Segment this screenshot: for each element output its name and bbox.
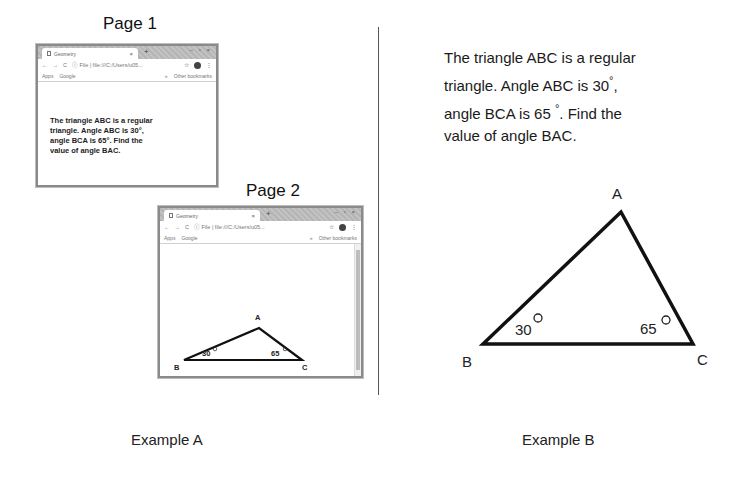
browser-window-page-1: Geometry × + – ▫ × ← → C ⓘ File | file:/… (36, 44, 218, 187)
degree-icon (662, 316, 670, 324)
example-b-label: Example B (522, 431, 595, 448)
tab-close-icon[interactable]: × (251, 213, 255, 219)
problem-line: triangle. Angle ABC is 30°, (444, 69, 684, 97)
vertex-b-label: B (462, 353, 472, 370)
browser-toolbar: ← → C ⓘ File | file:///C:/Users/u05... ☆… (38, 59, 216, 71)
page-content: The triangle ABC is a regular triangle. … (38, 82, 216, 156)
triangle-diagram-large: A B C 30 65 (440, 175, 731, 395)
tab-close-icon[interactable]: × (129, 51, 133, 57)
back-arrow-icon[interactable]: ← (42, 62, 48, 68)
problem-line: The triangle ABC is a regular (50, 116, 216, 126)
document-icon (47, 51, 51, 56)
profile-avatar[interactable] (339, 224, 346, 231)
reload-icon[interactable]: C (185, 224, 189, 230)
window-controls[interactable]: – ▫ × (190, 47, 212, 53)
vertex-b-label: B (174, 363, 180, 372)
bookmark-star-icon[interactable]: ☆ (184, 62, 189, 68)
address-bar[interactable]: ⓘ File | file:///C:/Users/u05... (194, 223, 324, 231)
angle-b-label: 30 (202, 349, 210, 358)
bookmarks-overflow[interactable]: » (310, 235, 313, 241)
menu-icon[interactable]: ⋮ (206, 62, 212, 68)
vertical-divider (378, 27, 379, 395)
problem-line: triangle. Angle ABC is 30°, (50, 126, 216, 136)
browser-toolbar: ← → C ⓘ File | file:///C:/Users/u05... ☆… (160, 221, 361, 233)
vertex-a-label: A (255, 313, 261, 322)
problem-line: The triangle ABC is a regular (444, 47, 684, 69)
window-controls[interactable]: – ▫ × (335, 209, 357, 215)
profile-avatar[interactable] (194, 62, 201, 69)
page-1-label: Page 1 (103, 14, 157, 34)
problem-line: angle BCA is 65 °. Find the (444, 97, 684, 125)
page-content: A B C 30 65 (160, 244, 361, 376)
title-bar: Geometry × + – ▫ × (38, 46, 216, 59)
other-bookmarks[interactable]: Other bookmarks (319, 235, 357, 241)
scrollbar-thumb[interactable] (356, 250, 360, 370)
vertex-a-label: A (612, 185, 622, 202)
forward-arrow-icon[interactable]: → (53, 62, 59, 68)
back-arrow-icon[interactable]: ← (164, 224, 170, 230)
reload-icon[interactable]: C (63, 62, 67, 68)
vertex-c-label: C (697, 351, 708, 368)
tab-title: Geometry (176, 213, 251, 219)
new-tab-button[interactable]: + (144, 47, 149, 56)
degree-icon (534, 314, 542, 322)
title-bar: Geometry × + – ▫ × (160, 208, 361, 221)
address-bar[interactable]: ⓘ File | file:///C:/Users/u05... (72, 61, 179, 69)
bookmark-apps[interactable]: Apps (42, 73, 53, 79)
triangle-diagram-small: A B C 30 65 (160, 244, 356, 376)
bookmark-google[interactable]: Google (181, 235, 197, 241)
bookmarks-bar: Apps Google » Other bookmarks (160, 233, 361, 244)
bookmark-star-icon[interactable]: ☆ (329, 224, 334, 230)
problem-text-b: The triangle ABC is a regular triangle. … (444, 47, 684, 147)
problem-line: value of angle BAC. (50, 146, 216, 156)
angle-b-label: 30 (515, 321, 532, 338)
bookmarks-bar: Apps Google » Other bookmarks (38, 71, 216, 82)
bookmark-apps[interactable]: Apps (164, 235, 175, 241)
other-bookmarks[interactable]: Other bookmarks (174, 73, 212, 79)
angle-c-label: 65 (271, 349, 279, 358)
browser-window-page-2: Geometry × + – ▫ × ← → C ⓘ File | file:/… (158, 206, 363, 378)
document-icon (169, 213, 173, 218)
new-tab-button[interactable]: + (266, 209, 271, 218)
problem-line: value of angle BAC. (444, 125, 684, 147)
bookmark-google[interactable]: Google (59, 73, 75, 79)
bookmarks-overflow[interactable]: » (165, 73, 168, 79)
menu-icon[interactable]: ⋮ (351, 224, 357, 230)
page-2-label: Page 2 (246, 181, 300, 201)
browser-tab[interactable]: Geometry × (42, 48, 138, 59)
example-a-label: Example A (131, 431, 203, 448)
tab-title: Geometry (54, 51, 129, 57)
problem-line: angle BCA is 65°. Find the (50, 136, 216, 146)
angle-c-label: 65 (640, 320, 657, 337)
browser-tab[interactable]: Geometry × (164, 210, 260, 221)
vertex-c-label: C (302, 363, 308, 372)
forward-arrow-icon[interactable]: → (175, 224, 181, 230)
vertical-scrollbar[interactable] (354, 244, 361, 376)
